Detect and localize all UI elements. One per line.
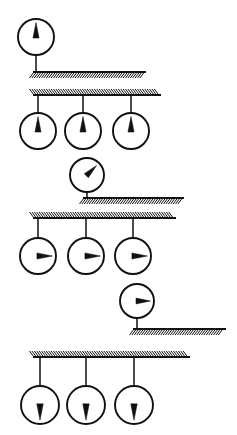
dial-group [20,89,161,149]
gauge-dial[interactable] [20,218,56,274]
gauge-dial[interactable] [20,95,56,149]
gauge-dial[interactable] [65,95,101,149]
gauge-dial[interactable] [67,357,105,424]
dial-group [70,158,184,204]
hatch-tick [130,329,135,335]
gauge-dial[interactable] [120,284,154,329]
support-bar [30,72,147,78]
support-bar [30,351,191,357]
gauge-dial[interactable] [113,95,149,149]
diagram-canvas [0,0,237,435]
gauge-dial[interactable] [115,218,151,274]
gauge-dial[interactable] [21,357,59,424]
gauge-dial[interactable] [18,19,54,72]
hatch-tick [80,198,85,204]
gauge-dial[interactable] [68,218,104,274]
gauge-dial[interactable] [115,357,153,424]
support-bar [30,89,162,95]
dial-group [120,284,226,335]
support-bar [30,212,177,218]
support-bar [80,198,185,204]
support-bar [130,329,227,335]
gauge-dial[interactable] [70,158,104,198]
dial-group [21,351,190,424]
hatch-tick [30,89,35,95]
gauge-support-diagram [0,0,237,435]
hatch-tick [30,351,35,357]
dial-group [20,212,176,274]
hatch-tick [30,212,35,218]
support-bar-hatching [80,198,183,204]
hatch-tick [30,72,35,78]
dial-group [18,19,146,78]
